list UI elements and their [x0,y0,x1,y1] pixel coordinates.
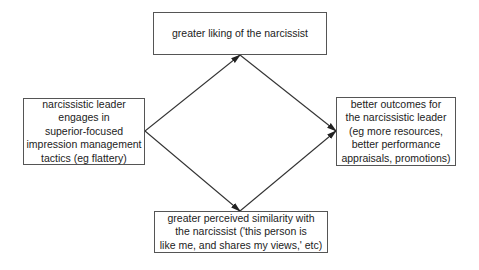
node-bottom-label: greater perceived similarity with the na… [160,212,322,253]
node-top-label: greater liking of the narcissist [172,27,308,41]
node-right-better-outcomes: better outcomes for the narcissistic lea… [336,97,456,166]
node-right-label: better outcomes for the narcissistic lea… [341,98,450,166]
node-left-label: narcissistic leader engages in superior-… [27,98,142,166]
node-bottom-perceived-similarity: greater perceived similarity with the na… [154,211,328,253]
node-top-greater-liking: greater liking of the narcissist [153,12,327,55]
arrow-left-to-top [145,55,240,131]
arrow-top-to-right [240,55,336,131]
arrow-bottom-to-right [240,131,336,211]
arrow-left-to-bottom [145,131,240,211]
node-left-narcissistic-leader-tactics: narcissistic leader engages in superior-… [23,98,145,165]
